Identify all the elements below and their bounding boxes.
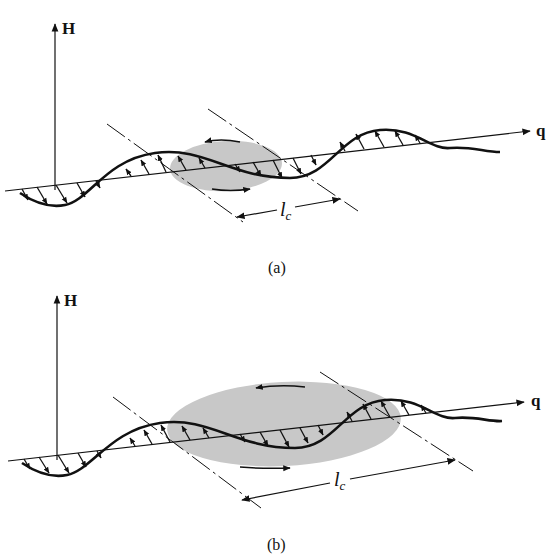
correlation-region-b xyxy=(165,376,403,472)
circulation-arrow-bottom-b xyxy=(240,467,290,468)
figure-canvas: H q xyxy=(0,0,558,558)
length-dimension-left-b xyxy=(242,483,330,500)
h-axis-label-b: H xyxy=(64,291,77,310)
length-dimension-right-a xyxy=(295,199,340,207)
length-label-b: lc xyxy=(334,468,346,493)
q-axis-label-b: q xyxy=(531,391,541,410)
q-axis-label-a: q xyxy=(536,121,546,140)
caption-b: (b) xyxy=(267,536,286,554)
panel-a: H q xyxy=(5,19,546,277)
caption-a: (a) xyxy=(268,259,286,277)
h-axis-label-a: H xyxy=(62,19,75,38)
length-dimension-right-b xyxy=(350,460,455,479)
panel-b: H q xyxy=(8,291,541,554)
length-dimension-left-a xyxy=(237,210,277,217)
q-axis-a xyxy=(5,131,530,191)
length-label-a: lc xyxy=(280,198,292,223)
